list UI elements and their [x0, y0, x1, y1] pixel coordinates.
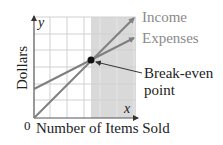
y-axis-title: Dollars — [14, 46, 30, 90]
break-even-chart: Income Expenses Break-even point y x 0 D… — [0, 0, 223, 145]
x-symbol: x — [123, 101, 131, 116]
break-even-point-marker — [88, 57, 95, 64]
origin-label: 0 — [24, 118, 31, 133]
expenses-label: Expenses — [142, 30, 199, 46]
break-even-label-line1: Break-even — [144, 65, 214, 81]
break-even-label-line2: point — [144, 82, 176, 98]
income-label: Income — [142, 9, 187, 25]
y-symbol: y — [36, 15, 45, 30]
x-axis-title: Number of Items Sold — [36, 120, 170, 136]
